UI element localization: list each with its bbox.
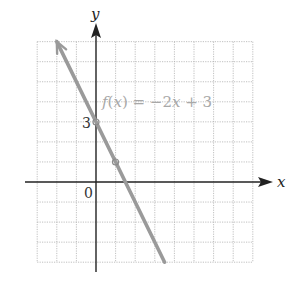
grid [37,42,253,263]
y-axis-label: y [90,5,100,23]
function-graph: x y 3 0 f(x) = −2x + 3 [0,0,299,299]
y-intercept-tick-label: 3 [82,115,91,131]
function-line [57,42,165,263]
function-equals-coef: = −2 [128,93,172,111]
function-constant: + 3 [180,93,212,111]
function-label: f(x) = −2x + 3 [101,93,212,111]
x-axis-label: x [277,173,286,191]
origin-label: 0 [84,185,93,201]
